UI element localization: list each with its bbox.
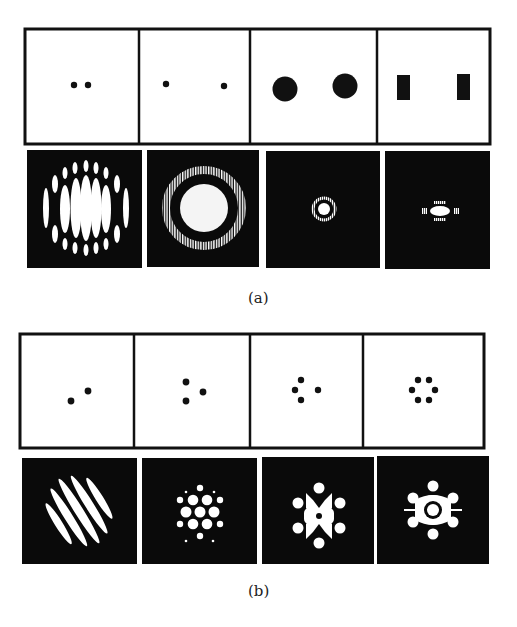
pattern-b2 bbox=[142, 458, 257, 564]
pattern-b4 bbox=[377, 456, 489, 564]
pattern-a2 bbox=[147, 150, 259, 267]
pattern-a3 bbox=[266, 151, 380, 268]
pattern-a4 bbox=[385, 151, 490, 269]
part-b-patterns bbox=[22, 456, 489, 564]
part-a-patterns bbox=[27, 150, 490, 269]
part-a-label: (a) bbox=[248, 289, 269, 307]
pattern-b1 bbox=[22, 458, 137, 564]
pattern-b3 bbox=[262, 457, 374, 564]
figure-canvas bbox=[0, 0, 517, 627]
pattern-a1 bbox=[27, 150, 142, 268]
part-b-label: (b) bbox=[248, 582, 269, 600]
part-b-apertures bbox=[20, 334, 484, 448]
part-a-apertures bbox=[25, 29, 490, 144]
